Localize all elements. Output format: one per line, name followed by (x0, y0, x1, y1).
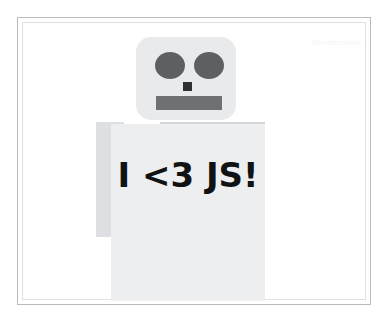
robot-mouth-icon (156, 96, 222, 110)
robot-torso (111, 124, 265, 301)
robot-nose-icon (183, 82, 192, 91)
robot-eye-right-icon (194, 52, 224, 79)
image-canvas: Shutterstock I <3 JS! (0, 0, 389, 325)
robot-eye-left-icon (155, 52, 185, 79)
robot-illustration: I <3 JS! (0, 0, 389, 325)
robot-slogan-text: I <3 JS! (111, 152, 265, 198)
